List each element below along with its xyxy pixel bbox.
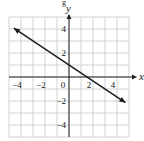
x-tick-label: 0 xyxy=(61,80,66,90)
x-axis-arrow-icon xyxy=(132,75,137,80)
x-tick-label: −2 xyxy=(36,80,46,90)
x-axis-label: x xyxy=(138,70,144,82)
coordinate-plane: g xy −4−202442−2−4 xyxy=(0,0,144,141)
x-tick-label: −4 xyxy=(12,80,22,90)
y-axis-label: y xyxy=(65,2,71,14)
y-tick-label: 4 xyxy=(62,24,67,34)
y-tick-label: −2 xyxy=(56,96,66,106)
y-axis-arrow-icon xyxy=(67,14,72,19)
x-tick-label: 4 xyxy=(111,80,116,90)
y-tick-label: 2 xyxy=(62,48,67,58)
line-arrow-end-icon xyxy=(119,97,125,102)
x-tick-label: 2 xyxy=(87,80,92,90)
y-tick-label: −4 xyxy=(56,120,66,130)
